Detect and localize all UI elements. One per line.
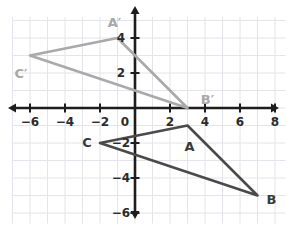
x-axis-tick-label: 4 xyxy=(201,116,209,128)
vertex-label-c-prime: C′ xyxy=(15,66,28,79)
y-axis-tick-label: −6 xyxy=(112,207,130,219)
x-axis-tick-label: −2 xyxy=(91,116,109,128)
y-axis-tick-label: 4 xyxy=(117,32,125,44)
y-axis-tick-label: 2 xyxy=(117,67,125,79)
x-axis-tick-label: 6 xyxy=(236,116,244,128)
vertex-label-a: A xyxy=(184,139,194,152)
vertex-label-b-prime: B′ xyxy=(201,93,214,106)
graph-canvas xyxy=(0,0,287,225)
x-axis-tick-label: 8 xyxy=(271,116,279,128)
vertex-label-c: C xyxy=(82,136,92,149)
x-axis-tick-label: −4 xyxy=(56,116,74,128)
y-axis-tick-label: −4 xyxy=(112,172,130,184)
vertex-label-a-prime: A′ xyxy=(108,16,122,29)
x-axis-tick-label: 2 xyxy=(166,116,174,128)
x-axis-tick-label: −6 xyxy=(21,116,39,128)
y-axis-tick-label: −2 xyxy=(112,137,130,149)
y-axis-arrow-up xyxy=(131,6,140,14)
coordinate-plane-figure: −6−4−2246842−2−4−60ABCA′B′C′ xyxy=(0,0,287,225)
origin-label: 0 xyxy=(121,116,129,128)
vertex-label-b: B xyxy=(267,192,277,205)
